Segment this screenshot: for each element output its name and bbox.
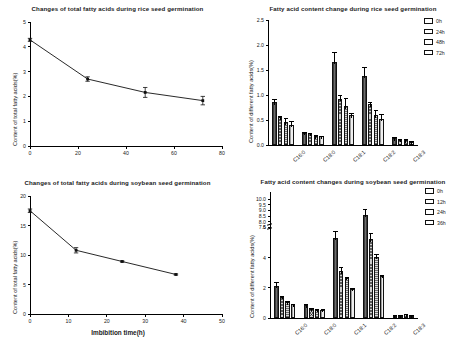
x-tick [183,314,184,317]
chart-title-rice-bars: Fatty acid content change during rice se… [235,5,471,12]
y-tick-label: 2.5 [249,17,264,23]
legend-swatch-24h [425,209,434,215]
bar-C18-1-36h [350,289,355,318]
line-series [30,196,222,314]
error-bar [365,209,366,218]
legend-item-24h: 24h [425,209,446,215]
x-tick-label: 50 [212,318,232,324]
chart-title-soybean-total: Changes of total fatty acids during soyb… [0,179,235,186]
error-bar-cap [302,132,306,133]
category-label-C18-3: C18:3 [412,322,427,336]
error-bar-cap [332,52,336,53]
error-bar-cap [374,254,378,255]
error-bar-cap [314,135,318,136]
x-axis-line [268,145,418,146]
legend-item-72h: 72h [424,50,445,56]
x-tick-label: 20 [68,150,88,156]
error-bar [334,52,335,65]
legend-label-0h: 0h [436,18,442,24]
error-bar-cap [393,315,397,316]
error-bar-cap [349,113,353,114]
bar-C18-2-24h [374,257,379,318]
legend-swatch-24h [424,29,433,35]
error-bar-cap [291,304,295,305]
legend-label-36h: 36h [437,220,446,226]
bar-C18-1-72h [349,115,354,145]
error-bar [291,121,292,127]
x-tick-label: 0 [20,318,40,324]
y-tick [266,95,269,96]
error-bar-cap [280,296,284,297]
y-tick-label: 8.0 [251,219,266,225]
y-tick-label: 20 [14,193,26,199]
bar-C16-0-72h [289,125,294,146]
bar-C18-2-36h [380,276,385,318]
bar-C18-2-0h [363,215,368,318]
category-label-C18-1: C18:1 [353,322,368,336]
bar-C16-0-0h [274,286,279,319]
category-label-C18-0: C18:0 [323,322,338,336]
error-bar [370,233,371,242]
legend-soybean-bars: 0h12h24h36h [425,188,446,230]
line-series [30,22,222,146]
y-tick-label: 9.0 [251,207,266,213]
y-tick [266,20,269,21]
error-bar [340,95,341,101]
error-bar-cap [274,282,278,283]
legend-swatch-48h [424,39,433,45]
legend-rice-bars: 0h24h48h72h [424,18,445,60]
error-bar [285,118,286,125]
y-axis-label-rice-total: Content of total fatty acids(%) [12,73,18,146]
chart-title-soybean-bars: Fatty acid content changes during soybea… [235,178,471,185]
error-bar-cap [308,133,312,134]
legend-label-12h: 12h [437,199,446,205]
legend-label-48h: 48h [436,39,445,45]
y-axis-line [268,20,269,145]
error-bar-cap [289,121,293,122]
y-tick-label: 7.5 [251,224,266,230]
bar-C18-2-12h [369,239,374,318]
x-axis-label-soybean-total: Imbibition time(h) [18,329,218,336]
legend-item-12h: 12h [425,199,446,205]
bar-C18-2-0h [362,76,367,146]
y-tick [268,199,271,200]
y-tick [266,45,269,46]
error-bar-cap [368,102,372,103]
legend-swatch-0h [424,18,433,24]
error-bar-cap [344,98,348,99]
error-bar [381,114,382,122]
legend-swatch-72h [424,50,433,56]
error-bar-cap [350,288,354,289]
axis-break-marker [267,222,275,231]
panel-soybean-total-line: Changes of total fatty acids during soyb… [0,174,235,347]
category-label-C18-2: C18:2 [382,149,397,163]
bar-C16-0-0h [272,102,277,145]
legend-swatch-12h [425,199,434,205]
panel-rice-bars: Fatty acid content change during rice se… [235,0,471,174]
error-bar [376,254,377,260]
error-bar [274,99,275,105]
legend-label-72h: 72h [436,50,445,56]
x-tick-label: 40 [174,318,194,324]
error-bar [341,267,342,273]
error-bar [345,98,346,109]
x-tick-label: 80 [212,150,232,156]
bar-C18-1-24h [345,278,350,318]
plot-area-soybean-total: 0510152001020304050 [30,196,222,314]
error-bar [375,110,376,118]
y-axis-label-soybean-total: Content of total fatty acids(%) [12,241,18,314]
x-tick-label: 0 [20,150,40,156]
x-tick-label: 20 [97,318,117,324]
y-tick [266,70,269,71]
plot-area-rice-total: 012345020406080 [30,22,222,146]
x-tick [222,146,223,149]
x-tick [222,314,223,317]
error-bar-cap [309,308,313,309]
error-bar-cap [333,231,337,232]
error-bar-cap [380,275,384,276]
x-tick-label: 60 [164,150,184,156]
y-tick-label: 5 [14,19,26,25]
x-tick-label: 10 [58,318,78,324]
x-tick [145,314,146,317]
error-bar [276,282,277,288]
